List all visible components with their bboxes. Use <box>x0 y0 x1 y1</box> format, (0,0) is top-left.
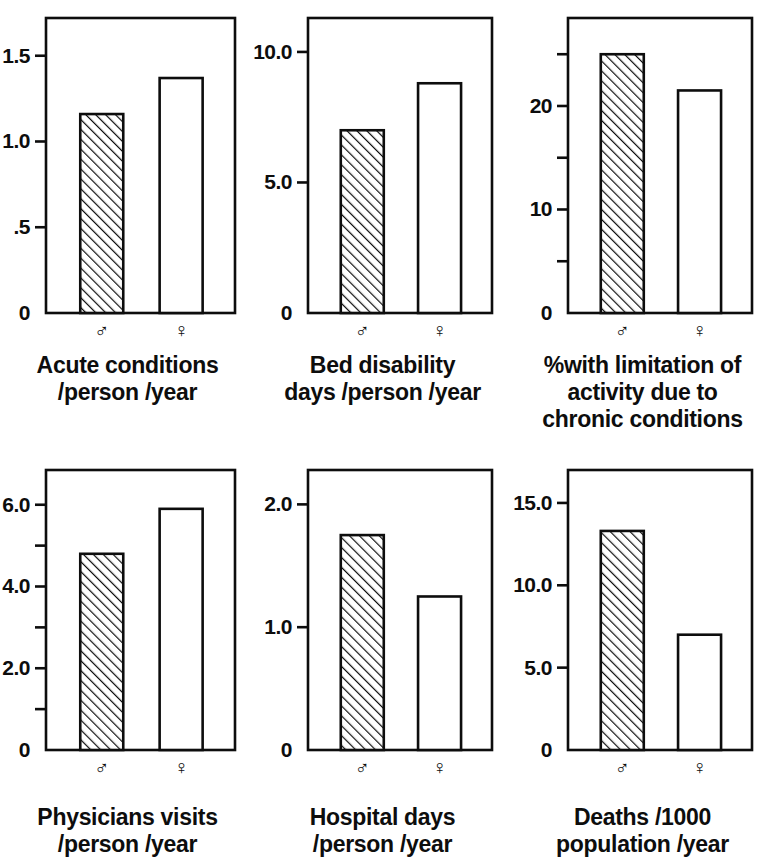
panel-caption-4: Physicians visits/person /year <box>0 804 255 858</box>
caption-line: Acute conditions <box>0 352 255 379</box>
female-symbol-icon: ♀ <box>692 757 707 777</box>
caption-line: %with limitation of <box>510 352 775 379</box>
male-symbol-icon: ♂ <box>615 757 630 777</box>
chart-panel-bed-disability-days: 05.010.0 ♂♀ Bed disabilitydays /person /… <box>255 0 510 420</box>
male-symbol-icon: ♂ <box>94 757 109 777</box>
chart-panel-limitation-of-activity: 01020 ♂♀ %with limitation ofactivity due… <box>510 0 775 420</box>
chart-panel-physicians-visits: 02.04.06.0 ♂♀ Physicians visits/person /… <box>0 420 255 843</box>
y-tick-label: 1.5 <box>2 45 30 66</box>
male-symbol-icon: ♂ <box>94 320 109 340</box>
category-symbol-row-6: ♂♀ <box>510 757 775 783</box>
y-tick-label: 10.0 <box>513 574 552 595</box>
category-symbol-row-5: ♂♀ <box>255 757 510 783</box>
bar-chart-svg-3 <box>510 0 775 335</box>
caption-line: Physicians visits <box>0 804 255 831</box>
male-symbol-icon: ♂ <box>615 320 630 340</box>
caption-line: /person /year <box>0 831 255 858</box>
bar-chart-svg-5 <box>255 452 510 787</box>
plot-area-3: 01020 ♂♀ <box>510 0 775 335</box>
category-symbol-row-4: ♂♀ <box>0 757 255 783</box>
female-symbol-icon: ♀ <box>174 320 189 340</box>
male-symbol-icon: ♂ <box>355 320 370 340</box>
plot-area-5: 01.02.0 ♂♀ <box>255 452 510 787</box>
y-tick-label: 2.0 <box>2 657 30 678</box>
y-tick-label: 1.0 <box>2 130 30 151</box>
bar-chart-svg-2 <box>255 0 510 335</box>
caption-line: days /person /year <box>255 379 510 406</box>
y-tick-label: 15.0 <box>513 492 552 513</box>
female-symbol-icon: ♀ <box>432 757 447 777</box>
caption-line: Bed disability <box>255 352 510 379</box>
y-tick-label: 5.0 <box>524 657 552 678</box>
panel-caption-5: Hospital days/person /year <box>255 804 510 858</box>
y-tick-label: 20 <box>530 95 552 116</box>
y-tick-label: 10.0 <box>253 41 292 62</box>
caption-line: /person /year <box>0 379 255 406</box>
y-tick-label: 2.0 <box>264 493 292 514</box>
chart-panel-acute-conditions: 0.51.01.5 ♂♀ Acute conditions/person /ye… <box>0 0 255 420</box>
panel-caption-2: Bed disabilitydays /person /year <box>255 352 510 406</box>
category-symbol-row-2: ♂♀ <box>255 320 510 346</box>
female-symbol-icon: ♀ <box>174 757 189 777</box>
category-symbol-row-3: ♂♀ <box>510 320 775 346</box>
plot-area-6: 05.010.015.0 ♂♀ <box>510 452 775 787</box>
caption-line: Hospital days <box>255 804 510 831</box>
bar-chart-svg-4 <box>0 452 255 787</box>
y-tick-label: 4.0 <box>2 575 30 596</box>
plot-area-4: 02.04.06.0 ♂♀ <box>0 452 255 787</box>
bar-chart-svg-1 <box>0 0 255 335</box>
caption-line: Deaths /1000 <box>510 804 775 831</box>
y-tick-label: 5.0 <box>264 171 292 192</box>
female-symbol-icon: ♀ <box>432 320 447 340</box>
panel-caption-6: Deaths /1000population /year <box>510 804 775 858</box>
caption-line: activity due to <box>510 379 775 406</box>
caption-line: population /year <box>510 831 775 858</box>
chart-panel-hospital-days: 01.02.0 ♂♀ Hospital days/person /year <box>255 420 510 843</box>
caption-line: /person /year <box>255 831 510 858</box>
panel-caption-1: Acute conditions/person /year <box>0 352 255 406</box>
y-tick-label: 10 <box>530 198 552 219</box>
female-symbol-icon: ♀ <box>692 320 707 340</box>
y-tick-label: 6.0 <box>2 494 30 515</box>
chart-panel-deaths: 05.010.015.0 ♂♀ Deaths /1000population /… <box>510 420 775 843</box>
y-tick-label: .5 <box>13 216 30 237</box>
category-symbol-row-1: ♂♀ <box>0 320 255 346</box>
plot-area-2: 05.010.0 ♂♀ <box>255 0 510 335</box>
male-symbol-icon: ♂ <box>355 757 370 777</box>
y-tick-label: 1.0 <box>264 616 292 637</box>
plot-area-1: 0.51.01.5 ♂♀ <box>0 0 255 335</box>
